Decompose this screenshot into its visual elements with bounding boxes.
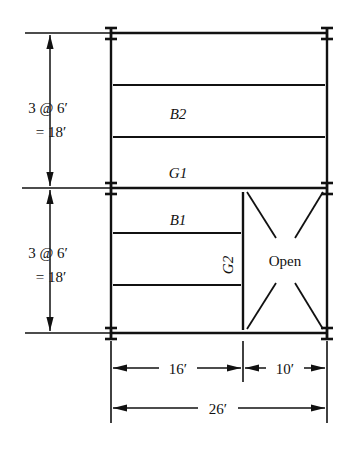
vertical-dimension-upper-line2: = 18′ (36, 124, 67, 140)
dimension-10ft-label: 10′ (276, 361, 294, 377)
dimension-26ft-label: 26′ (209, 401, 227, 417)
beam-b1-label: B1 (170, 212, 187, 228)
vertical-dimension-upper-line1: 3 @ 6′ (28, 100, 68, 116)
framing-plan-diagram: 3 @ 6′ = 18′ 3 @ 6′ = 18′ B2 G1 G2 (0, 0, 349, 457)
opening-label: Open (269, 253, 302, 269)
diagram-background (0, 0, 349, 457)
vertical-dimension-lower-line1: 3 @ 6′ (28, 245, 68, 261)
girder-g2-label: G2 (220, 255, 236, 274)
dimension-16ft-label: 16′ (169, 361, 187, 377)
vertical-dimension-lower-line2: = 18′ (36, 269, 67, 285)
girder-g1-label: G1 (169, 165, 187, 181)
beam-b2-label: B2 (170, 106, 187, 122)
